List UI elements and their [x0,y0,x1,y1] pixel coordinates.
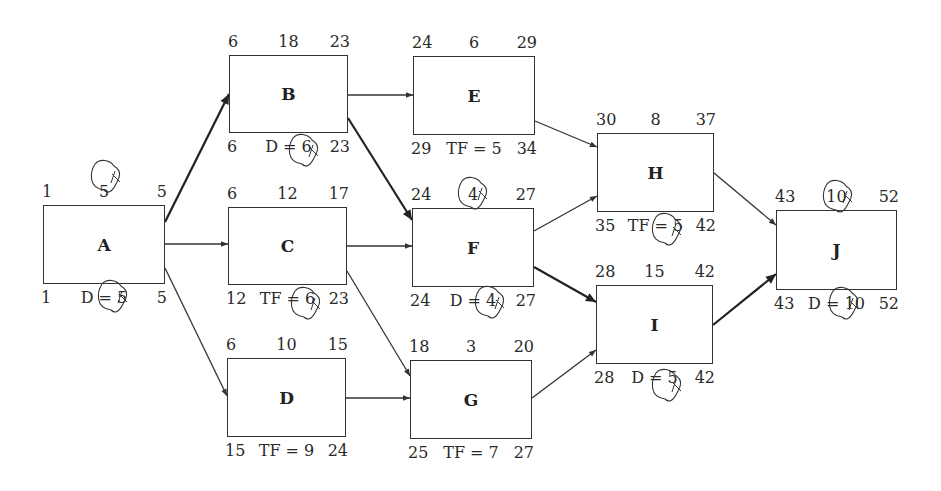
late-start: 29 [411,140,431,158]
activity-node-h: H [597,133,714,212]
late-finish: 52 [879,295,899,313]
late-start: 6 [227,138,237,156]
activity-label: E [414,86,534,106]
late-start: 15 [225,442,245,460]
duration: 5 [99,183,109,201]
early-start: 6 [228,33,238,51]
duration: 4 [468,186,478,204]
edge-b-to-f-arrow [348,118,412,220]
activity-node-i: I [596,285,713,364]
late-finish: 23 [329,290,349,308]
bottom-annotation: D = 6 [265,138,312,156]
activity-node-e: E [413,56,535,135]
activity-label: D [228,388,345,408]
late-start: 25 [408,444,428,462]
early-start: 30 [596,111,616,129]
early-finish: 42 [695,263,715,281]
activity-label: C [229,236,346,256]
late-finish: 23 [330,138,350,156]
early-start: 6 [227,185,237,203]
activity-label: G [411,390,531,410]
activity-node-d: D [227,358,346,437]
early-start: 6 [226,336,236,354]
duration: 3 [466,338,476,356]
activity-node-g: G [410,360,532,439]
duration: 6 [469,34,479,52]
late-finish: 42 [695,369,715,387]
late-start: 24 [410,292,430,310]
activity-label: H [598,163,713,183]
bottom-annotation: TF = 5 [446,140,502,158]
early-finish: 15 [328,336,348,354]
early-start: 28 [595,263,615,281]
activity-label: F [413,238,533,258]
early-finish: 29 [517,34,537,52]
duration: 8 [650,111,660,129]
late-start: 43 [774,295,794,313]
edge-c-to-g-arrow [347,271,410,376]
late-start: 35 [595,217,615,235]
duration: 18 [278,33,298,51]
edge-i-to-j-arrow [713,274,776,325]
duration: 10 [276,336,296,354]
late-start: 28 [594,369,614,387]
late-finish: 27 [516,292,536,310]
activity-node-f: F [412,208,534,287]
early-finish: 20 [514,338,534,356]
early-finish: 17 [329,185,349,203]
early-finish: 37 [696,111,716,129]
duration: 15 [644,263,664,281]
early-start: 24 [412,34,432,52]
bottom-annotation: TF = 5 [628,217,684,235]
early-finish: 27 [516,186,536,204]
bottom-annotation: D = 10 [808,295,865,313]
activity-node-j: J [776,210,897,290]
activity-label: J [777,240,896,260]
late-finish: 34 [517,140,537,158]
edge-e-to-h-arrow [535,121,597,147]
edge-f-to-h-arrow [534,196,597,231]
activity-node-a: A [43,205,165,284]
late-start: 12 [226,290,246,308]
early-start: 1 [42,183,52,201]
early-finish: 52 [879,188,899,206]
activity-label: A [44,235,164,255]
edge-a-to-b-arrow [165,94,229,222]
bottom-annotation: TF = 6 [260,290,316,308]
late-finish: 5 [157,289,167,307]
activity-node-b: B [229,55,348,133]
edge-a-to-d-arrow [165,268,227,396]
activity-node-c: C [228,207,347,285]
bottom-annotation: TF = 9 [259,442,315,460]
early-finish: 23 [330,33,350,51]
cpm-network-diagram: A1551D = 55B618236D = 623C6121712TF = 62… [0,0,941,491]
duration: 12 [277,185,297,203]
edge-g-to-i-arrow [532,350,596,398]
edge-h-to-j-arrow [714,173,776,225]
bottom-annotation: D = 4 [450,292,497,310]
duration: 10 [826,188,846,206]
early-start: 43 [775,188,795,206]
activity-label: B [230,84,347,104]
late-finish: 27 [514,444,534,462]
activity-label: I [597,315,712,335]
late-finish: 24 [328,442,348,460]
early-finish: 5 [157,183,167,201]
bottom-annotation: TF = 7 [443,444,499,462]
bottom-annotation: D = 5 [81,289,128,307]
late-start: 1 [41,289,51,307]
early-start: 18 [409,338,429,356]
edge-f-to-i-arrow [534,267,596,302]
early-start: 24 [411,186,431,204]
late-finish: 42 [696,217,716,235]
bottom-annotation: D = 5 [631,369,678,387]
